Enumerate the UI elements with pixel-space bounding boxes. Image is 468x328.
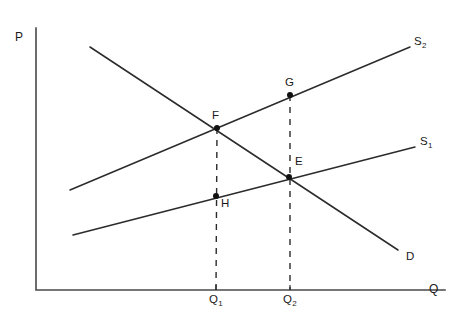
point-label-f: F bbox=[212, 110, 219, 122]
point-marker-h bbox=[213, 193, 219, 199]
y-axis-label: P bbox=[15, 31, 23, 43]
supply-curve-1-label-sub: 1 bbox=[428, 141, 433, 150]
supply-curve-1-label-text: S bbox=[420, 135, 428, 147]
point-marker-e bbox=[286, 174, 292, 180]
supply-curve-1-label: S1 bbox=[420, 136, 433, 150]
supply-curve-2-label-text: S bbox=[414, 35, 422, 47]
supply-curve-1 bbox=[73, 147, 415, 235]
supply-curve-2 bbox=[70, 47, 410, 190]
quantity-label-q1-sub: 1 bbox=[218, 299, 223, 308]
quantity-label-q2: Q2 bbox=[283, 294, 297, 308]
x-axis-label: Q bbox=[429, 283, 439, 295]
point-label-h: H bbox=[221, 198, 230, 210]
point-marker-f bbox=[214, 125, 220, 131]
supply-demand-figure: P Q D S2 S1 F G E H Q1 Q2 bbox=[0, 0, 468, 328]
supply-curve-2-label-sub: 2 bbox=[422, 41, 427, 50]
axes bbox=[36, 28, 445, 290]
demand-curve bbox=[90, 47, 398, 250]
point-label-e: E bbox=[295, 156, 303, 168]
chart-canvas bbox=[0, 0, 468, 328]
quantity-label-q2-text: Q bbox=[283, 293, 292, 305]
point-marker-g bbox=[287, 92, 293, 98]
quantity-label-q1-text: Q bbox=[209, 293, 218, 305]
quantity-label-q1: Q1 bbox=[209, 294, 223, 308]
drop-line-q1 bbox=[216, 128, 217, 290]
supply-curve-2-label: S2 bbox=[414, 36, 427, 50]
quantity-label-q2-sub: 2 bbox=[292, 299, 297, 308]
demand-curve-label: D bbox=[406, 251, 415, 263]
point-label-g: G bbox=[285, 77, 294, 89]
